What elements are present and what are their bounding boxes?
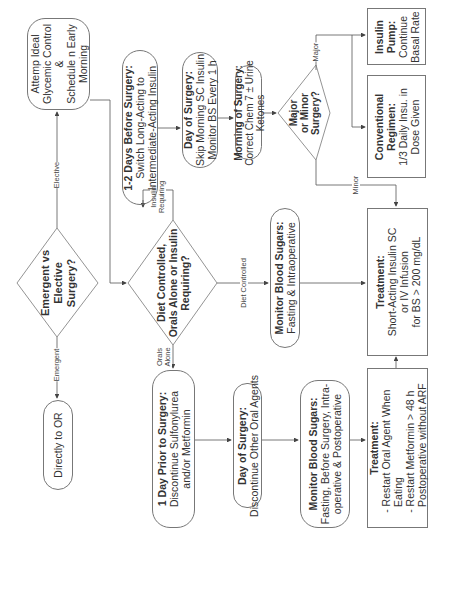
edge-label-emergent: Emergent <box>53 349 61 382</box>
node-line: Eating <box>392 383 404 513</box>
directly-to-or-node: Directly to OR <box>43 400 73 490</box>
node-title: Day of Surgery: <box>236 375 248 517</box>
decision-text: Emergent vs Elective Surgery? <box>38 243 77 323</box>
node-line: - Restart Oral Agent When <box>380 383 392 513</box>
node-line: for BS > 200 mg/dL <box>410 228 422 337</box>
attempt-glycemic-control-node: Attemp Ideal Glycemic Control & Schedule… <box>27 18 90 110</box>
orals-step-2-node: Day of Surgery: Discontinue Other Oral A… <box>233 383 262 508</box>
node-line: Discontinue Other Oral Agents <box>248 375 260 517</box>
node-line: & <box>53 24 65 104</box>
edge-label-orals-alone: Orals Alone <box>156 347 172 366</box>
node-title: 1-2 Days Before Surgery: <box>122 65 134 190</box>
node-line: Ketones <box>254 60 265 166</box>
node-line: Continue <box>397 11 409 62</box>
decision-line: Surgery? <box>310 91 321 135</box>
node-line: Postoperative without ARF <box>416 383 428 513</box>
node-line: Correct Chem 7 ± Urine <box>243 60 254 166</box>
node-line: Attemp Ideal <box>29 24 41 104</box>
node-line: and/or Metformin <box>180 391 192 507</box>
emergent-vs-elective-decision: Emergent vs Elective Surgery? <box>17 228 98 337</box>
node-line: or IV Infusion <box>398 228 410 337</box>
node-line: Intermediate-Acting Insulin <box>146 65 158 190</box>
node-line: Basal Rate <box>409 11 421 62</box>
decision-line: Diet Controlled, <box>155 228 167 337</box>
flowchart-canvas: Emergent vs Elective Surgery? Elective E… <box>0 0 450 589</box>
node-title: Monitor Blood Sugars: <box>273 221 285 334</box>
node-line: Switch Long-Acting to <box>134 65 146 190</box>
node-title: Morning of Surgery: <box>232 60 243 166</box>
node-title: Day of Surgery: <box>182 54 194 166</box>
node-title: Monitor Blood Sugars: <box>307 384 319 524</box>
node-title: Conventional <box>373 88 385 166</box>
insulin-pump-node: Insulin Pump: Continue Basal Rate <box>367 8 426 65</box>
diet-monitor-node: Monitor Blood Sugars: Fasting & Intraope… <box>270 208 300 348</box>
decision-line: or Minor <box>299 91 310 135</box>
node-line: - Restart Metformin > 48 h <box>404 383 416 513</box>
node-line: Glycemic Control <box>41 24 53 104</box>
decision-line: Orals Alone or Insulin <box>167 228 179 337</box>
label-line: Alone <box>164 347 172 366</box>
edge-label-minor: Minor <box>352 176 360 195</box>
node-title: Treatment: <box>374 228 386 337</box>
node-title: Regimen: <box>385 88 397 166</box>
edge-label-major: Major <box>312 43 320 62</box>
conventional-regimen-node: Conventional Regimen: 1/3 Daily Insu. in… <box>367 75 426 178</box>
node-title: Pump: <box>385 11 397 62</box>
node-title: Treatment: <box>368 383 380 513</box>
insulin-step-1-node: 1-2 Days Before Surgery: Switch Long-Act… <box>122 50 158 205</box>
node-line: Morning <box>77 24 89 104</box>
node-title: Insulin <box>373 11 385 62</box>
node-line: Monitor BS Every 1 h <box>206 54 218 166</box>
decision-line: Major <box>288 91 299 135</box>
treatment-insulin-node: Treatment: Short-Acting Insulin SC or IV… <box>367 208 428 356</box>
node-line: Discontinue Sulfonylurea <box>168 391 180 507</box>
label-line: Requiring <box>158 181 166 213</box>
orals-monitor-node: Monitor Blood Sugars: Fasting, Before Su… <box>300 380 350 528</box>
node-title: 1 Day Prior to Surgery: <box>156 391 168 507</box>
node-line: Fasting, Before Surgery, Intra- <box>319 384 331 524</box>
node-line: Skip Morning SC Insulin <box>194 54 206 166</box>
regimen-decision: Diet Controlled, Orals Alone or Insulin … <box>128 220 217 345</box>
treatment-orals-node: Treatment: - Restart Oral Agent When Eat… <box>367 368 428 528</box>
decision-line: Requiring? <box>179 228 191 337</box>
node-line: Short-Acting Insulin SC <box>386 228 398 337</box>
node-line: Fasting & Intraoperative <box>285 221 297 334</box>
insulin-step-3-node: Morning of Surgery: Correct Chem 7 ± Uri… <box>235 65 262 160</box>
node-line: operative & Postoperative <box>331 384 343 524</box>
major-minor-decision: Major or Minor Surgery? <box>278 65 330 160</box>
orals-step-1-node: 1 Day Prior to Surgery: Discontinue Sulf… <box>152 370 195 528</box>
node-line: Schedule n Early <box>65 24 77 104</box>
node-line: Dose Given <box>409 88 421 166</box>
insulin-step-2-node: Day of Surgery: Skip Morning SC Insulin … <box>182 52 218 168</box>
node-text: Directly to OR <box>52 412 64 477</box>
node-line: 1/3 Daily Insu. in <box>397 88 409 166</box>
edge-label-diet-controlled: Diet Controlled <box>240 258 248 308</box>
edge-label-elective: Elective <box>53 162 61 188</box>
